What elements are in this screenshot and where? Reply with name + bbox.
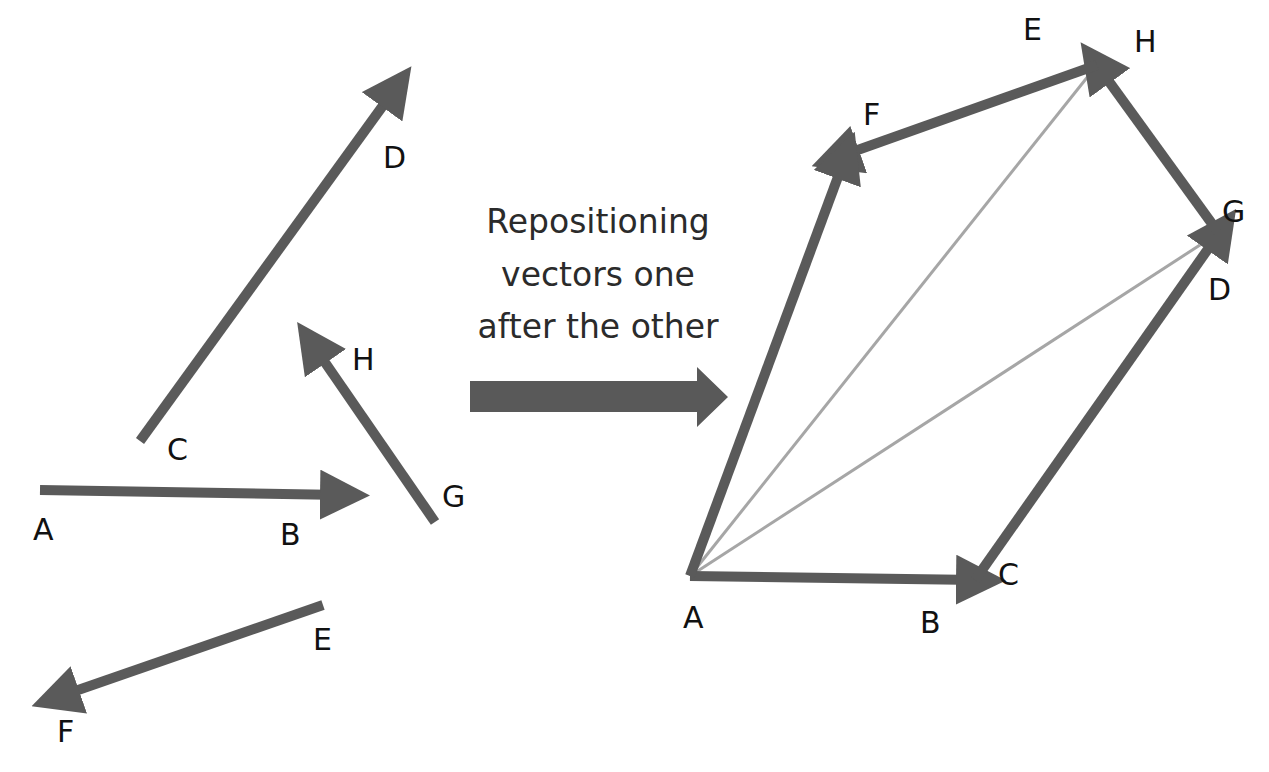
- right-vector-ab: [690, 576, 978, 580]
- right-vector-cd: [975, 232, 1220, 580]
- right-label-h: H: [1134, 24, 1157, 59]
- vector-addition-diagram: ABCDHGEF Repositioning vectors one after…: [0, 0, 1269, 772]
- right-label-d: D: [1208, 272, 1231, 307]
- left-label-h: H: [352, 342, 375, 377]
- left-vector-ef: [58, 605, 323, 697]
- left-label-d: D: [383, 140, 406, 175]
- left-vector-cd: [140, 89, 395, 441]
- left-labels-group: ABCDHGEF: [33, 140, 465, 749]
- right-vector-gh: [1097, 65, 1218, 232]
- left-label-c: C: [167, 432, 188, 467]
- caption-line-3: after the other: [477, 307, 719, 346]
- resultant-ag: [690, 232, 1220, 576]
- left-label-a: A: [33, 512, 54, 547]
- right-vector-af: [690, 158, 845, 576]
- left-vectors-group: [40, 89, 435, 697]
- caption: Repositioning vectors one after the othe…: [477, 202, 719, 346]
- right-label-e: E: [1023, 12, 1042, 47]
- right-resultants-group: [690, 65, 1220, 576]
- right-label-g: G: [1222, 194, 1245, 229]
- right-label-c: C: [998, 557, 1019, 592]
- caption-line-1: Repositioning: [486, 202, 710, 241]
- right-vectors-group: [690, 65, 1220, 580]
- right-labels-group: ABCDGEHF: [683, 12, 1245, 640]
- caption-line-2: vectors one: [501, 255, 695, 294]
- right-label-a: A: [683, 600, 704, 635]
- left-label-f: F: [57, 714, 74, 749]
- left-label-g: G: [442, 479, 465, 514]
- right-label-f: F: [863, 97, 880, 132]
- left-vector-ab: [40, 490, 342, 495]
- right-label-b: B: [920, 605, 941, 640]
- left-label-e: E: [313, 622, 332, 657]
- left-label-b: B: [280, 517, 301, 552]
- repositioning-arrow-icon: [470, 367, 728, 427]
